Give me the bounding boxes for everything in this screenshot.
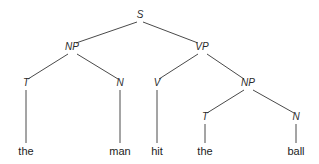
tree-edge-np2-to-n2 [253,90,294,113]
tree-node-np2: NP [241,77,255,88]
tree-node-t1: T [23,77,30,88]
tree-node-s: S [137,9,144,20]
tree-edge-s-to-np1 [76,22,137,43]
tree-edge-vp-to-v [159,54,198,79]
tree-edge-np2-to-t2 [207,90,244,113]
tree-leaf-w5: ball [287,145,304,157]
tree-leaf-w2: man [109,145,130,157]
tree-edge-vp-to-np2 [207,54,244,79]
tree-edge-np1-to-t1 [28,54,68,79]
tree-leaf-w1: the [18,145,33,157]
tree-node-n1: N [116,77,124,88]
tree-leaf-w3: hit [151,145,163,157]
tree-canvas: SNPVPTNVNPTN themanhittheball [0,0,319,164]
tree-edge-s-to-vp [143,22,198,43]
tree-node-np1: NP [65,41,79,52]
tree-leaf-w4: the [197,145,212,157]
tree-node-n2: N [292,111,300,122]
tree-node-t2: T [202,111,209,122]
tree-leaf-group: themanhittheball [18,145,304,157]
tree-edge-np1-to-n1 [77,54,118,79]
tree-node-group: SNPVPTNVNPTN [23,9,300,122]
tree-node-vp: VP [195,41,209,52]
syntax-tree-diagram: SNPVPTNVNPTN themanhittheball [0,0,319,164]
